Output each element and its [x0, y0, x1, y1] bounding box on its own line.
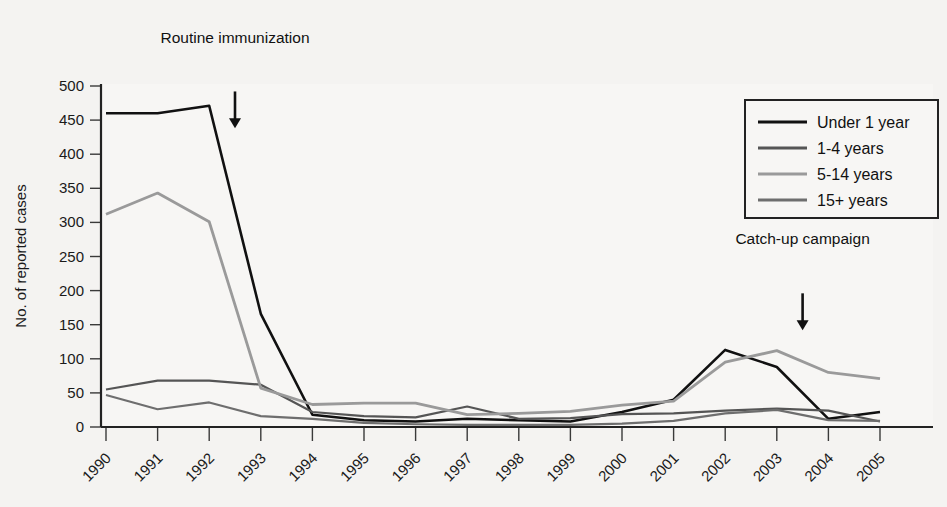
y-tick-label: 250 [59, 248, 84, 265]
y-tick-label: 100 [59, 350, 84, 367]
legend-label-1: 1-4 years [817, 140, 884, 157]
y-tick-label: 400 [59, 145, 84, 162]
y-tick-label: 350 [59, 179, 84, 196]
y-tick-label: 200 [59, 282, 84, 299]
y-axis-title-text: No. of reported cases [12, 184, 29, 327]
legend-label-2: 5-14 years [817, 166, 893, 183]
legend-label-0: Under 1 year [817, 114, 910, 131]
chart-figure: No. of reported cases 050100150200250300… [0, 0, 947, 507]
y-tick-label: 300 [59, 213, 84, 230]
y-axis-title: No. of reported cases [12, 184, 29, 327]
annotation-label-1: Catch-up campaign [735, 230, 869, 247]
annotation-label-0: Routine immunization [160, 29, 309, 46]
y-tick-label: 500 [59, 77, 84, 94]
y-tick-label: 450 [59, 111, 84, 128]
chart-legend: Under 1 year1-4 years5-14 years15+ years [745, 100, 938, 218]
legend-label-3: 15+ years [817, 192, 888, 209]
y-tick-label: 150 [59, 316, 84, 333]
y-tick-label: 0 [76, 418, 84, 435]
line-chart: No. of reported cases 050100150200250300… [0, 0, 947, 507]
y-tick-label: 50 [67, 384, 84, 401]
